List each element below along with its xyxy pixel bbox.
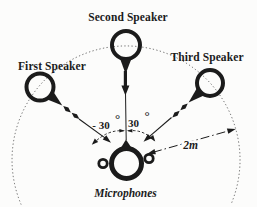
third-speaker-dash-1 <box>180 103 187 110</box>
microphone-right-ear <box>145 154 153 162</box>
second-speaker-circle <box>112 31 140 59</box>
distance-label: 2m <box>182 139 198 151</box>
angle-left-degree: ° <box>115 111 120 126</box>
angle-left-label: - 30 <box>92 119 110 131</box>
third-speaker-circle <box>197 70 223 96</box>
distance-arrow-arc-end <box>227 129 236 134</box>
second-speaker-beam-thin <box>126 92 127 140</box>
diagram-svg: Second Speaker First Speaker Third Speak… <box>0 0 257 207</box>
microphone-left-ear <box>99 159 107 167</box>
third-speaker-beam <box>149 118 172 137</box>
first-speaker-dash-2 <box>72 113 80 119</box>
angle-right-label: 30 <box>128 117 140 129</box>
angle-annotation <box>92 129 155 145</box>
angle-right-degree: ° <box>145 108 150 123</box>
first-speaker-horn <box>47 91 63 105</box>
angle-arc-right-inner-arrow <box>127 129 132 132</box>
third-speaker-dash-2 <box>172 111 179 118</box>
first-speaker-label: First Speaker <box>18 60 86 73</box>
microphone-array <box>99 140 153 179</box>
third-speaker <box>144 70 224 142</box>
first-speaker-dash-1 <box>63 106 71 112</box>
second-speaker-label: Second Speaker <box>88 11 168 24</box>
angle-arc-left-inner-arrow <box>119 129 125 132</box>
first-speaker-arrowhead <box>103 135 111 143</box>
speaker-microphone-diagram: Second Speaker First Speaker Third Speak… <box>0 0 257 207</box>
first-speaker <box>27 74 112 143</box>
microphone-body-circle <box>112 149 142 179</box>
third-speaker-label: Third Speaker <box>170 51 243 64</box>
microphones-label: Microphones <box>93 187 157 200</box>
